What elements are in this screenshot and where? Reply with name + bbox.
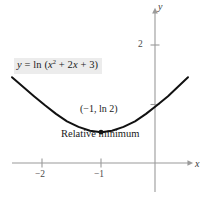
y-axis-tick-label-2: 2 (138, 40, 143, 50)
x-axis-tick-label-minus-1: −1 (94, 170, 104, 180)
equation-equals: = (25, 59, 31, 70)
y-axis-name-label: y (158, 2, 162, 12)
relative-minimum-coordinate-label: (−1, ln 2) (80, 104, 118, 114)
equation-close-paren: ) (95, 59, 99, 70)
point-x-value: −1 (83, 103, 94, 114)
plot-canvas (0, 0, 208, 197)
equation-exponent: 2 (53, 58, 56, 65)
equation-ln: ln (33, 59, 41, 70)
relative-minimum-caption: Relative minimum (61, 129, 139, 140)
equation-lhs: y (17, 59, 22, 70)
point-ln: ln (99, 103, 107, 114)
equation-term-2x-var: x (73, 59, 78, 70)
x-axis-name-label: x (195, 159, 199, 169)
x-axis-tick-label-minus-2: −2 (35, 170, 45, 180)
point-close-paren: ) (114, 103, 117, 114)
equation-constant: + 3 (80, 59, 94, 70)
function-graph-figure: y = ln (x2 + 2x + 3) (−1, ln 2) Relative… (0, 0, 208, 197)
equation-label: y = ln (x2 + 2x + 3) (14, 58, 102, 74)
equation-term-2x-coef: + 2 (59, 59, 73, 70)
